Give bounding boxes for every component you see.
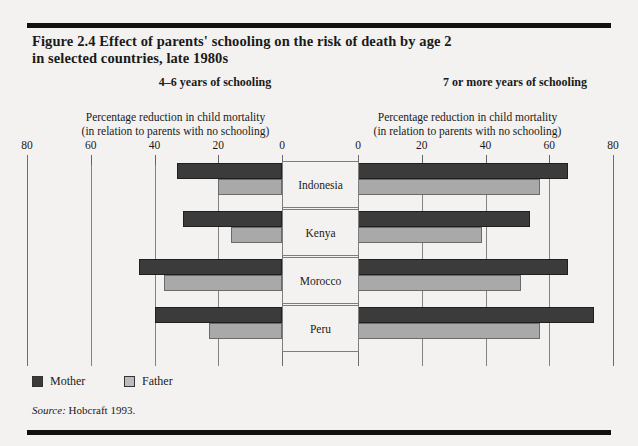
- source-text: Hobcraft 1993.: [69, 404, 136, 416]
- legend-swatch-mother-icon: [32, 376, 43, 387]
- chart-row: Morocco: [0, 257, 638, 305]
- top-rule: [27, 23, 611, 28]
- figure-title-line-2: in selected countries, late 1980s: [32, 50, 592, 67]
- bar-right-father-indonesia: [358, 179, 540, 195]
- country-label-peru: Peru: [282, 305, 359, 352]
- axis-tick-label-left-60: 60: [76, 139, 106, 151]
- bar-left-father-kenya: [231, 227, 282, 243]
- bar-left-mother-morocco: [139, 259, 282, 275]
- country-label-text: Kenya: [305, 227, 335, 239]
- bar-right-mother-indonesia: [358, 163, 568, 179]
- axis-caption-right-line-1: Percentage reduction in child mortality: [350, 110, 585, 124]
- bar-right-father-morocco: [358, 275, 521, 291]
- axis-tick-label-left-0: 0: [267, 139, 297, 151]
- axis-tick-label-left-20: 20: [203, 139, 233, 151]
- bar-left-father-peru: [209, 323, 282, 339]
- legend-item-mother: Mother: [32, 374, 85, 389]
- source-note: Source: Hobcraft 1993.: [32, 404, 135, 416]
- bar-left-father-indonesia: [218, 179, 282, 195]
- legend-item-father: Father: [124, 374, 173, 389]
- bar-right-father-peru: [358, 323, 540, 339]
- country-label-text: Peru: [310, 323, 331, 335]
- bar-right-mother-morocco: [358, 259, 568, 275]
- source-label: Source:: [32, 404, 66, 416]
- bar-right-mother-peru: [358, 307, 594, 323]
- axis-caption-left-line-1: Percentage reduction in child mortality: [58, 110, 293, 124]
- country-label-indonesia: Indonesia: [282, 161, 359, 208]
- axis-tick-label-right-20: 20: [407, 139, 437, 151]
- country-label-text: Morocco: [300, 275, 342, 287]
- country-label-text: Indonesia: [298, 179, 343, 191]
- axis-caption-right: Percentage reduction in child mortality …: [350, 110, 585, 138]
- country-label-kenya: Kenya: [282, 209, 359, 256]
- figure-frame: Figure 2.4 Effect of parents' schooling …: [0, 0, 638, 446]
- legend-label-mother: Mother: [50, 374, 85, 389]
- legend-label-father: Father: [142, 374, 173, 389]
- figure-title-line-1: Figure 2.4 Effect of parents' schooling …: [32, 33, 592, 50]
- chart-plot-area: IndonesiaKenyaMoroccoPeru: [0, 155, 638, 366]
- axis-tick-label-right-60: 60: [534, 139, 564, 151]
- axis-tick-label-left-80: 80: [12, 139, 42, 151]
- axis-tick-label-right-40: 40: [471, 139, 501, 151]
- bar-right-father-kenya: [358, 227, 482, 243]
- legend-swatch-father-icon: [124, 376, 135, 387]
- country-label-morocco: Morocco: [282, 257, 359, 304]
- panel-heading-right: 7 or more years of schooling: [400, 75, 630, 90]
- bar-left-mother-peru: [155, 307, 283, 323]
- page-title: Figure 2.4 Effect of parents' schooling …: [32, 33, 592, 67]
- axis-caption-left-line-2: (in relation to parents with no schoolin…: [58, 124, 293, 138]
- chart-row: Indonesia: [0, 161, 638, 209]
- axis-tick-label-right-80: 80: [598, 139, 628, 151]
- chart-row: Kenya: [0, 209, 638, 257]
- chart-row: Peru: [0, 305, 638, 353]
- bar-left-mother-kenya: [183, 211, 282, 227]
- bar-left-mother-indonesia: [177, 163, 282, 179]
- axis-caption-left: Percentage reduction in child mortality …: [58, 110, 293, 138]
- bar-left-father-morocco: [164, 275, 282, 291]
- bar-right-mother-kenya: [358, 211, 530, 227]
- axis-tick-label-left-40: 40: [140, 139, 170, 151]
- axis-tick-label-right-0: 0: [343, 139, 373, 151]
- bottom-rule: [27, 430, 611, 435]
- panel-heading-left: 4–6 years of schooling: [95, 75, 335, 90]
- axis-caption-right-line-2: (in relation to parents with no schoolin…: [350, 124, 585, 138]
